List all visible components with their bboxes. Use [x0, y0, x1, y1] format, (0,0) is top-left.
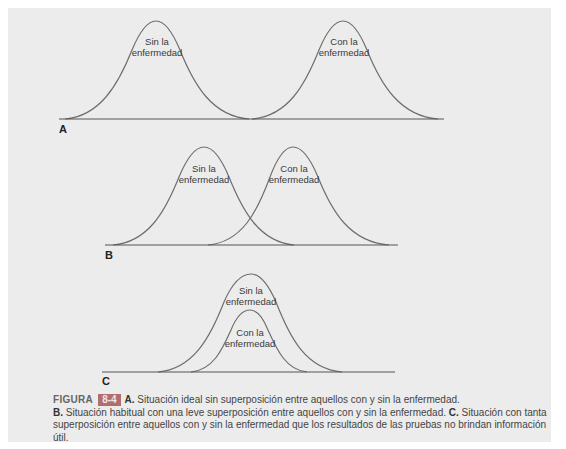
label-line: Sin la: [117, 36, 197, 47]
figure-caption: FIGURA8-4A. Situación ideal sin superpos…: [53, 394, 548, 444]
label-line: enfermedad: [304, 47, 384, 58]
label-line: Con la: [210, 327, 290, 338]
label-line: Con la: [254, 163, 334, 174]
curve-b-con: [208, 147, 389, 245]
label-c-con: Con la enfermedad: [210, 327, 290, 349]
label-line: enfermedad: [211, 296, 291, 307]
curve-b-sin: [113, 147, 294, 245]
label-line: Con la: [304, 36, 384, 47]
label-line: enfermedad: [254, 174, 334, 185]
panel-letter-b: B: [105, 249, 113, 261]
label-line: Sin la: [211, 285, 291, 296]
caption-b-label: B.: [53, 407, 63, 418]
label-c-sin: Sin la enfermedad: [211, 285, 291, 307]
caption-a-text: Situación ideal sin superposición entre …: [135, 394, 460, 405]
figure-number-badge: 8-4: [98, 394, 120, 406]
label-line: enfermedad: [210, 338, 290, 349]
label-line: enfermedad: [117, 47, 197, 58]
label-line: Sin la: [164, 163, 244, 174]
caption-c-label: C.: [449, 407, 459, 418]
caption-a-label: A.: [125, 394, 135, 405]
label-b-sin: Sin la enfermedad: [164, 163, 244, 185]
caption-b-text: Situación habitual con una leve superpos…: [63, 407, 449, 418]
distribution-diagram: [0, 0, 566, 449]
panel-b: [105, 147, 398, 245]
panel-letter-c: C: [102, 375, 110, 387]
figure-word: FIGURA: [53, 394, 93, 405]
label-line: enfermedad: [164, 174, 244, 185]
panel-letter-a: A: [59, 123, 67, 135]
label-a-con: Con la enfermedad: [304, 36, 384, 58]
label-a-sin: Sin la enfermedad: [117, 36, 197, 58]
label-b-con: Con la enfermedad: [254, 163, 334, 185]
